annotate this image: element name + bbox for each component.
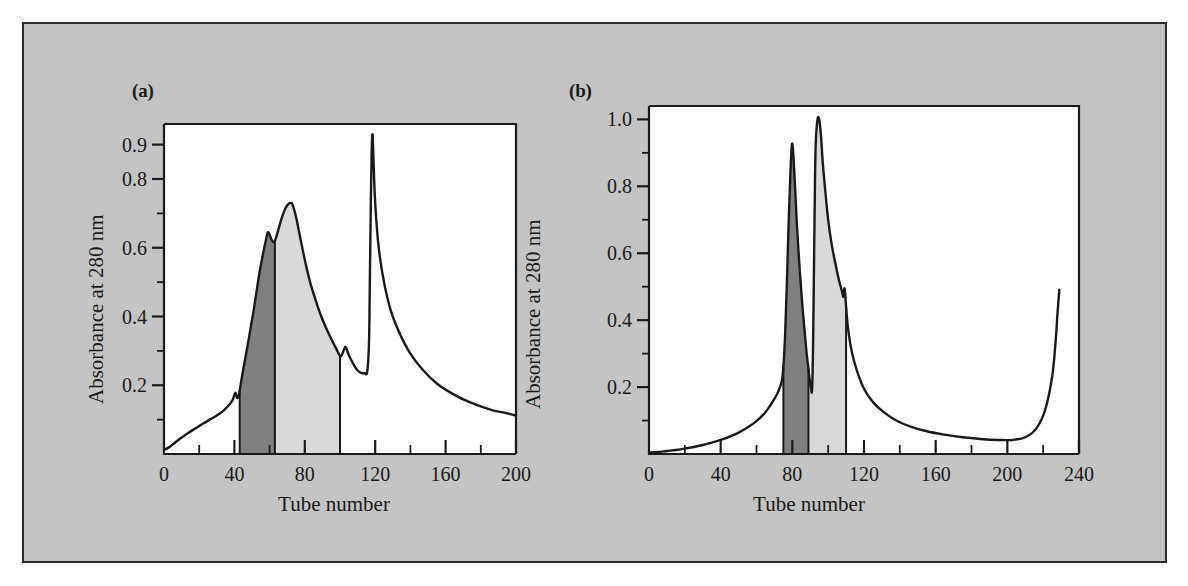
y-tick-label: 1.0 [607, 108, 632, 130]
x-tick-label: 0 [644, 463, 654, 485]
y-tick-label: 0.2 [122, 374, 147, 396]
x-tick-label: 200 [501, 463, 531, 485]
y-tick-label: 0.2 [607, 376, 632, 398]
figure-background-panel: (a) Absorbance at 280 nm Tube number 0.2… [22, 22, 1167, 563]
x-tick-label: 80 [782, 463, 802, 485]
x-tick-label: 40 [224, 463, 244, 485]
y-tick-label: 0.6 [122, 237, 147, 259]
x-tick-label: 40 [711, 463, 731, 485]
x-axis-title-b: Tube number [579, 492, 1039, 517]
x-tick-label: 160 [921, 463, 951, 485]
chart-panel-a: (a) Absorbance at 280 nm Tube number 0.2… [64, 24, 564, 565]
chart-panel-b: (b) Absorbance at 280 nm Tube number 0.2… [549, 24, 1109, 565]
figure-root: (a) Absorbance at 280 nm Tube number 0.2… [0, 0, 1188, 586]
y-tick-label: 0.4 [607, 309, 632, 331]
x-tick-label: 200 [992, 463, 1022, 485]
y-tick-label: 0.9 [122, 134, 147, 156]
y-tick-label: 0.4 [122, 306, 147, 328]
x-tick-label: 0 [159, 463, 169, 485]
y-tick-label: 0.8 [122, 168, 147, 190]
x-axis-title-a: Tube number [144, 492, 524, 517]
x-tick-label: 240 [1064, 463, 1094, 485]
x-tick-label: 120 [360, 463, 390, 485]
x-tick-label: 160 [431, 463, 461, 485]
plot-area-b: 0.20.40.60.81.004080120160200240 [549, 24, 1109, 494]
y-tick-label: 0.8 [607, 175, 632, 197]
plot-area-a: 0.20.40.60.80.904080120160200 [64, 24, 564, 494]
x-tick-label: 80 [295, 463, 315, 485]
y-axis-title-b: Absorbance at 280 nm [521, 219, 546, 409]
x-tick-label: 120 [849, 463, 879, 485]
y-tick-label: 0.6 [607, 242, 632, 264]
